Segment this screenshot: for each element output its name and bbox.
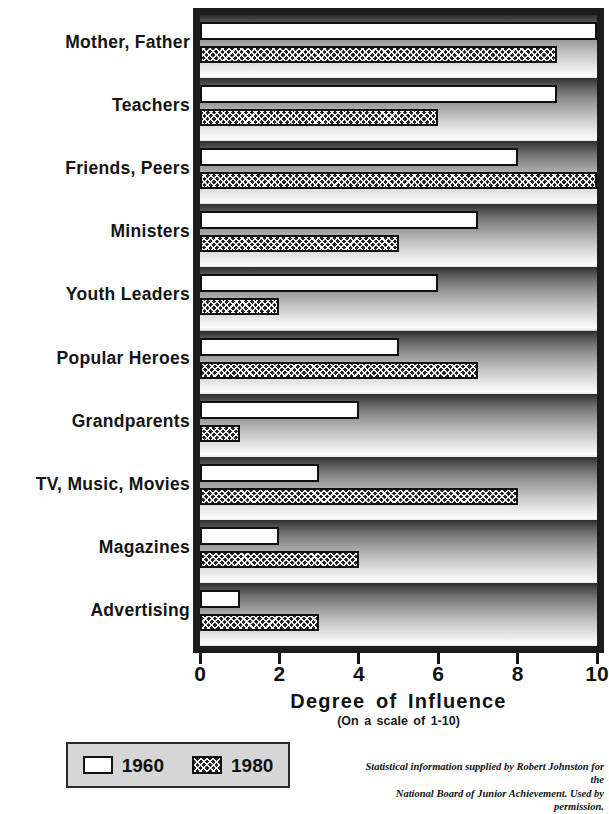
legend-swatch-1980-icon — [192, 756, 222, 774]
bar-1980 — [200, 46, 557, 63]
bar-1980 — [200, 551, 359, 568]
credit-line-1: Statistical information supplied by Robe… — [352, 760, 604, 787]
bar-1960 — [200, 274, 438, 292]
legend-label-1960: 1960 — [122, 756, 164, 775]
credit-line-2: National Board of Junior Achievement. Us… — [352, 787, 604, 814]
bar-1960 — [200, 401, 359, 419]
bar-1960 — [200, 590, 240, 608]
x-axis-tick-label: 4 — [353, 663, 365, 684]
legend-swatch-1960-icon — [83, 756, 113, 774]
bar-1980 — [200, 488, 518, 505]
bar-1960 — [200, 527, 279, 545]
credit-note: Statistical information supplied by Robe… — [352, 760, 604, 814]
x-axis-subtitle: (On a scale of 1-10) — [193, 714, 604, 728]
x-axis-tick-label: 6 — [432, 663, 444, 684]
bar-1960 — [200, 211, 478, 229]
legend-item-1980: 1980 — [192, 756, 273, 775]
x-axis-tick-label: 2 — [274, 663, 286, 684]
category-label: Magazines — [0, 539, 190, 557]
chart-plot-area — [193, 8, 604, 653]
category-label: Popular Heroes — [0, 350, 190, 368]
bar-1980 — [200, 109, 438, 126]
category-label: Advertising — [0, 602, 190, 620]
bar-1980 — [200, 172, 597, 189]
x-axis: 0246810 — [193, 653, 604, 683]
category-label: Mother, Father — [0, 34, 190, 52]
bar-1960 — [200, 85, 557, 103]
category-axis-labels: Mother, FatherTeachersFriends, PeersMini… — [0, 8, 190, 653]
category-label: Ministers — [0, 223, 190, 241]
bar-1960 — [200, 464, 319, 482]
category-label: Teachers — [0, 97, 190, 115]
bar-1980 — [200, 362, 478, 379]
category-label: TV, Music, Movies — [0, 476, 190, 494]
legend-label-1980: 1980 — [231, 756, 273, 775]
bar-1980 — [200, 298, 279, 315]
x-axis-tick-label: 10 — [585, 663, 608, 684]
bar-1960 — [200, 148, 518, 166]
bar-1960 — [200, 22, 597, 40]
category-label: Friends, Peers — [0, 160, 190, 178]
category-label: Youth Leaders — [0, 286, 190, 304]
plot-inner — [200, 15, 597, 646]
x-axis-title: Degree of Influence — [193, 690, 604, 713]
chart-legend: 1960 1980 — [66, 742, 290, 788]
bar-1960 — [200, 338, 399, 356]
category-label: Grandparents — [0, 413, 190, 431]
legend-item-1960: 1960 — [83, 756, 164, 775]
x-axis-tick-label: 0 — [194, 663, 206, 684]
bar-1980 — [200, 235, 399, 252]
x-axis-tick-label: 8 — [512, 663, 524, 684]
bar-1980 — [200, 425, 240, 442]
bar-1980 — [200, 614, 319, 631]
